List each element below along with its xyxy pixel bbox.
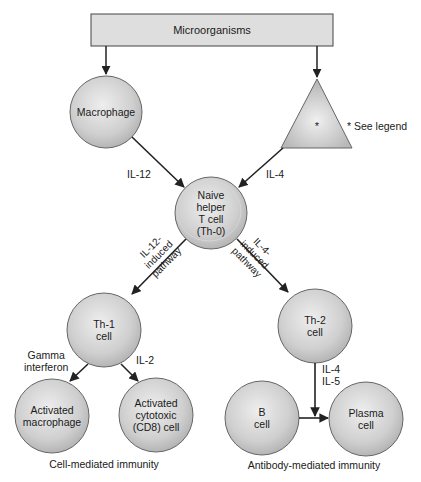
b-cell-line2: cell <box>254 418 270 430</box>
plasma-line1: Plasma <box>348 407 383 419</box>
naive-line1: Naive <box>196 189 225 201</box>
il4-label: IL-4 <box>266 168 284 180</box>
see-legend-note: * See legend <box>347 120 407 132</box>
gamma-interferon-label: Gamma interferon <box>24 349 68 373</box>
il12-label: IL-12 <box>127 168 151 180</box>
plasma-cell-label: Plasma cell <box>348 407 383 431</box>
act-macrophage-line1: Activated <box>23 404 81 416</box>
triangle-asterisk: * <box>315 120 319 132</box>
act-cytotoxic-line2: cytotoxic <box>133 409 180 421</box>
antibody-mediated-caption: Antibody-mediated immunity <box>248 459 380 471</box>
arrow-th1-to-cytotoxic <box>121 364 138 381</box>
naive-line2: helper <box>196 201 225 213</box>
macrophage-label: Macrophage <box>77 106 135 118</box>
th2-label: Th-2 cell <box>304 314 326 338</box>
th2-line2: cell <box>304 326 326 338</box>
act-cytotoxic-line3: (CD8) cell <box>133 421 180 433</box>
triangle-node <box>281 79 352 148</box>
gamma-line2: interferon <box>24 361 68 373</box>
th2-line1: Th-2 <box>304 314 326 326</box>
il4-line: IL-4 <box>322 363 340 375</box>
naive-t-cell-label: Naive helper T cell (Th-0) <box>196 189 225 237</box>
act-macrophage-line2: macrophage <box>23 416 81 428</box>
cell-mediated-caption: Cell-mediated immunity <box>49 458 159 470</box>
naive-line3: T cell <box>196 213 225 225</box>
microorganisms-label: Microorganisms <box>173 24 251 36</box>
naive-line4: (Th-0) <box>196 225 225 237</box>
th1-label: Th-1 cell <box>93 318 115 342</box>
plasma-line2: cell <box>348 419 383 431</box>
il5-line: IL-5 <box>322 375 340 387</box>
th1-line2: cell <box>93 330 115 342</box>
th1-line1: Th-1 <box>93 318 115 330</box>
arrow-th1-to-act-macrophage <box>70 364 88 381</box>
il2-label: IL-2 <box>136 354 154 366</box>
activated-macrophage-label: Activated macrophage <box>23 404 81 428</box>
b-cell-line1: B <box>254 406 270 418</box>
b-cell-label: B cell <box>254 406 270 430</box>
act-cytotoxic-line1: Activated <box>133 397 180 409</box>
gamma-line1: Gamma <box>24 349 68 361</box>
activated-cytotoxic-label: Activated cytotoxic (CD8) cell <box>133 397 180 433</box>
il4-il5-label: IL-4 IL-5 <box>322 363 340 387</box>
